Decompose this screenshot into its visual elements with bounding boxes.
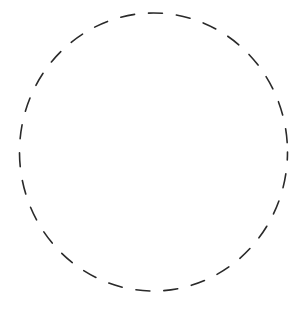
dashed-circle-shape bbox=[20, 13, 288, 291]
diagram-canvas bbox=[0, 0, 303, 314]
